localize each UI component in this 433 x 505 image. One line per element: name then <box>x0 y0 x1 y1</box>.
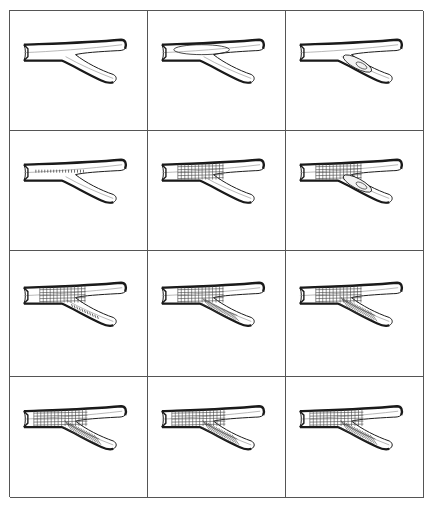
bifurcation-vessel-icon <box>148 377 285 497</box>
bifurcation-vessel-icon <box>10 11 147 130</box>
bifurcation-vessel-icon <box>10 131 147 250</box>
bifurcation-vessel-icon <box>286 377 423 497</box>
bifurcation-vessel-icon <box>10 251 147 376</box>
bifurcation-vessel-icon <box>148 11 285 130</box>
panel-11 <box>148 377 286 498</box>
panel-8 <box>148 251 286 377</box>
panel-6 <box>286 131 424 251</box>
bifurcation-vessel-icon <box>10 377 147 497</box>
bifurcation-vessel-icon <box>148 251 285 376</box>
panel-5 <box>148 131 286 251</box>
bifurcation-vessel-icon <box>286 11 423 130</box>
panel-3 <box>286 11 424 131</box>
panel-7 <box>10 251 148 377</box>
panel-12 <box>286 377 424 498</box>
panel-9 <box>286 251 424 377</box>
bifurcation-vessel-icon <box>286 131 423 250</box>
panel-2 <box>148 11 286 131</box>
panel-10 <box>10 377 148 498</box>
bifurcation-vessel-icon <box>286 251 423 376</box>
panel-1 <box>10 11 148 131</box>
panel-4 <box>10 131 148 251</box>
figure-grid <box>9 10 423 497</box>
bifurcation-vessel-icon <box>148 131 285 250</box>
